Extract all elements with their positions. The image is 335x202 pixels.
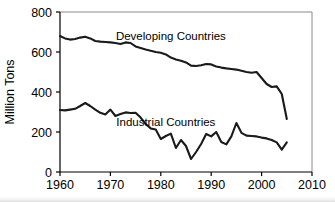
x-tick-label: 1980 [147,178,175,192]
y-tick-label: 600 [31,46,52,60]
line-chart: 0200400600800 196019701980199020002010 M… [0,0,335,202]
y-tick-label: 200 [31,126,52,140]
y-tick-label: 800 [31,6,52,20]
series-paths [60,36,287,159]
series-label: Developing Countries [116,30,226,42]
x-tick-label: 2010 [298,178,326,192]
y-axis-title: Million Tons [3,59,17,124]
y-tick-label: 400 [31,86,52,100]
series-line [60,103,287,159]
y-axis-tick-labels: 0200400600800 [31,6,52,180]
chart-container: 0200400600800 196019701980199020002010 M… [0,0,335,202]
x-tick-label: 1990 [197,178,225,192]
x-axis-tick-labels: 196019701980199020002010 [46,178,326,192]
series-line [60,36,287,119]
x-tick-label: 2000 [248,178,276,192]
x-tick-label: 1960 [46,178,74,192]
series-label: Industrial Countries [116,116,215,128]
x-tick-label: 1970 [96,178,124,192]
